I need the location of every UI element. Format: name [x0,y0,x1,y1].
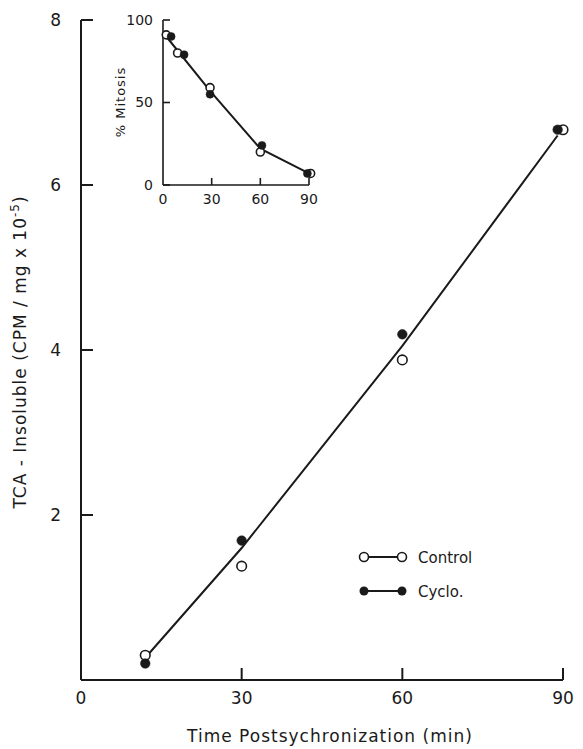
open-circle-marker-icon [360,553,369,562]
x-tick-label: 60 [392,688,414,708]
y-axis-label: TCA - Insoluble (CPM / mg x 10-5) [8,195,30,509]
legend-label-control: Control [418,549,472,567]
trend-line [145,136,557,658]
inset-trend-line [166,37,309,174]
inset-x-tick-label: 90 [300,191,318,207]
inset-y-tick-label: 50 [135,94,153,110]
x-axis-label: Time Postsychronization (min) [186,726,473,746]
filled-circle-marker-icon [360,587,369,596]
y-tick-label: 6 [50,175,61,195]
filled-circle-marker-icon [553,125,563,135]
filled-circle-marker-icon [140,659,150,669]
legend-item-cyclo: Cyclo. [360,583,464,601]
inset-x-tick-label: 60 [251,191,269,207]
x-tick-label: 30 [231,688,253,708]
inset-y-axis-label: % Mitosis [113,67,128,138]
inset-x-tick-label: 0 [159,191,168,207]
filled-circle-marker-icon [398,330,408,340]
filled-circle-marker-icon [398,587,407,596]
x-tick-label: 0 [76,688,87,708]
filled-circle-marker-icon [258,141,266,149]
filled-circle-marker-icon [303,169,311,177]
x-tick-label: 90 [552,688,574,708]
inset-y-tick-label: 0 [144,177,153,193]
inset-axes: 0501000306090 [126,12,318,207]
filled-circle-marker-icon [180,51,188,59]
legend-item-control: Control [360,549,473,567]
filled-circle-marker-icon [206,90,214,98]
inset-series-cyclo [167,33,311,178]
legend-label-cyclo: Cyclo. [418,583,463,601]
main-axes: 24680306090 [50,10,574,708]
open-circle-marker-icon [237,561,247,571]
open-circle-marker-icon [398,553,407,562]
legend: Control Cyclo. [360,549,473,601]
open-circle-marker-icon [398,355,408,365]
filled-circle-marker-icon [237,536,247,546]
inset-x-tick-label: 30 [203,191,221,207]
filled-circle-marker-icon [167,33,175,41]
y-tick-label: 4 [50,340,61,360]
y-tick-label: 2 [50,505,61,525]
inset-y-tick-label: 100 [126,12,153,28]
y-tick-label: 8 [50,10,61,30]
chart-figure: 24680306090 0501000306090 Time Postsychr… [0,0,583,749]
inset-plot-area [162,31,314,178]
